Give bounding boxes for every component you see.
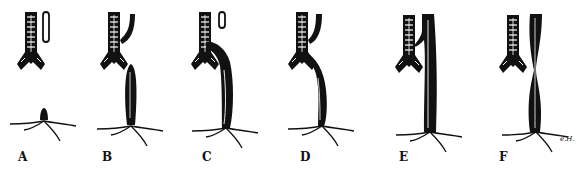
panel-d-drawing [288, 12, 354, 146]
panel-b-drawing [97, 12, 163, 146]
panel-f-drawing [499, 14, 568, 152]
illustration-drawing [0, 0, 587, 171]
panel-c-drawing [191, 12, 258, 148]
panel-label-f: F [499, 150, 508, 164]
panel-label-d: D [300, 150, 310, 164]
panel-label-a: A [18, 150, 27, 164]
panel-label-c: C [202, 150, 212, 164]
panel-a-drawing [10, 12, 76, 141]
panel-label-e: E [399, 150, 408, 164]
artist-signature: e.H. [560, 135, 575, 143]
illustration-figure: A B C D E F e.H. [0, 0, 587, 171]
panel-e-drawing [395, 14, 462, 152]
panel-label-b: B [102, 150, 112, 164]
